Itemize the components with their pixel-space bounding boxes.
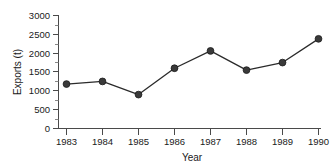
x-tick-label-1989: 1989 xyxy=(272,136,293,147)
data-point-1989 xyxy=(279,59,286,66)
x-tick-label-1985: 1985 xyxy=(128,136,149,147)
chart-canvas: 3000 2500 2000 1500 1000 500 0 Exports (… xyxy=(0,0,332,166)
data-point-1990 xyxy=(315,35,322,42)
y-tick-label-0: 0 xyxy=(45,123,50,134)
y-axis-title: Exports (t) xyxy=(12,49,23,95)
x-axis-title: Year xyxy=(182,152,203,163)
y-axis-group: 3000 2500 2000 1500 1000 500 0 Exports (… xyxy=(12,10,59,134)
x-tick-label-1984: 1984 xyxy=(92,136,113,147)
x-tick-label-1988: 1988 xyxy=(236,136,257,147)
data-series-exports xyxy=(63,35,322,98)
exports-line-chart: 3000 2500 2000 1500 1000 500 0 Exports (… xyxy=(0,0,332,166)
data-point-1986 xyxy=(171,65,178,72)
y-tick-label-2500: 2500 xyxy=(29,29,50,40)
x-axis-group: 1983 1984 1985 1986 1987 1988 1989 1990 … xyxy=(56,129,329,164)
x-tick-label-1990: 1990 xyxy=(308,136,329,147)
data-point-1983 xyxy=(63,81,70,88)
x-tick-label-1987: 1987 xyxy=(200,136,221,147)
data-point-1988 xyxy=(243,67,250,74)
exports-line-path xyxy=(67,39,319,95)
y-tick-label-3000: 3000 xyxy=(29,10,50,21)
x-tick-label-1983: 1983 xyxy=(56,136,77,147)
y-tick-label-500: 500 xyxy=(34,104,50,115)
data-point-1985 xyxy=(135,91,142,98)
x-tick-label-1986: 1986 xyxy=(164,136,185,147)
data-point-1984 xyxy=(99,78,106,85)
data-point-1987 xyxy=(207,48,214,55)
exports-marker-group xyxy=(63,35,322,98)
y-tick-label-1000: 1000 xyxy=(29,85,50,96)
y-tick-label-2000: 2000 xyxy=(29,48,50,59)
y-tick-label-1500: 1500 xyxy=(29,66,50,77)
